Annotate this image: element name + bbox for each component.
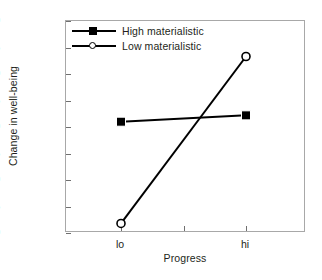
chart-legend: High materialistic Low materialistic xyxy=(72,24,204,53)
y-axis-title: Change in well-being xyxy=(4,0,22,232)
x-axis-tick-label: hi xyxy=(225,238,265,250)
series-line xyxy=(121,57,246,224)
x-axis-tick-label: lo xyxy=(100,238,140,250)
series-line xyxy=(121,115,246,121)
data-point-marker xyxy=(117,219,125,227)
data-point-marker xyxy=(242,111,251,120)
chart-figure: Change in well-being 2.01.51.00.50.0-0.5… xyxy=(0,0,322,280)
legend-label-low-materialistic: Low materialistic xyxy=(122,40,201,52)
y-axis-tick-mark xyxy=(66,233,71,234)
legend-entry-low-materialistic: Low materialistic xyxy=(72,39,204,53)
filled-square-marker-icon xyxy=(72,24,116,38)
data-point-marker xyxy=(242,53,250,61)
data-point-marker xyxy=(117,117,126,126)
open-circle-marker-icon xyxy=(72,39,116,53)
legend-entry-high-materialistic: High materialistic xyxy=(72,24,204,38)
legend-label-high-materialistic: High materialistic xyxy=(122,25,204,37)
plot-area: High materialistic Low materialistic xyxy=(65,20,305,232)
x-axis-title: Progress xyxy=(65,252,305,264)
